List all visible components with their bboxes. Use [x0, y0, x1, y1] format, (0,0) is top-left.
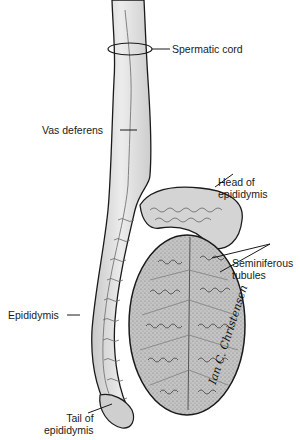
label-vas-deferens: Vas deferens: [42, 124, 103, 136]
tail-of-epididymis-shape: [100, 394, 134, 428]
label-spermatic-cord: Spermatic cord: [172, 43, 243, 55]
anatomy-illustration: [0, 0, 300, 440]
label-tail-of-epididymis: Tail of epididymis: [44, 412, 94, 436]
label-head-of-epididymis: Head of epididymis: [218, 176, 268, 200]
label-seminiferous-tubules: Seminiferous tubules: [232, 257, 293, 281]
label-epididymis: Epididymis: [8, 309, 59, 321]
